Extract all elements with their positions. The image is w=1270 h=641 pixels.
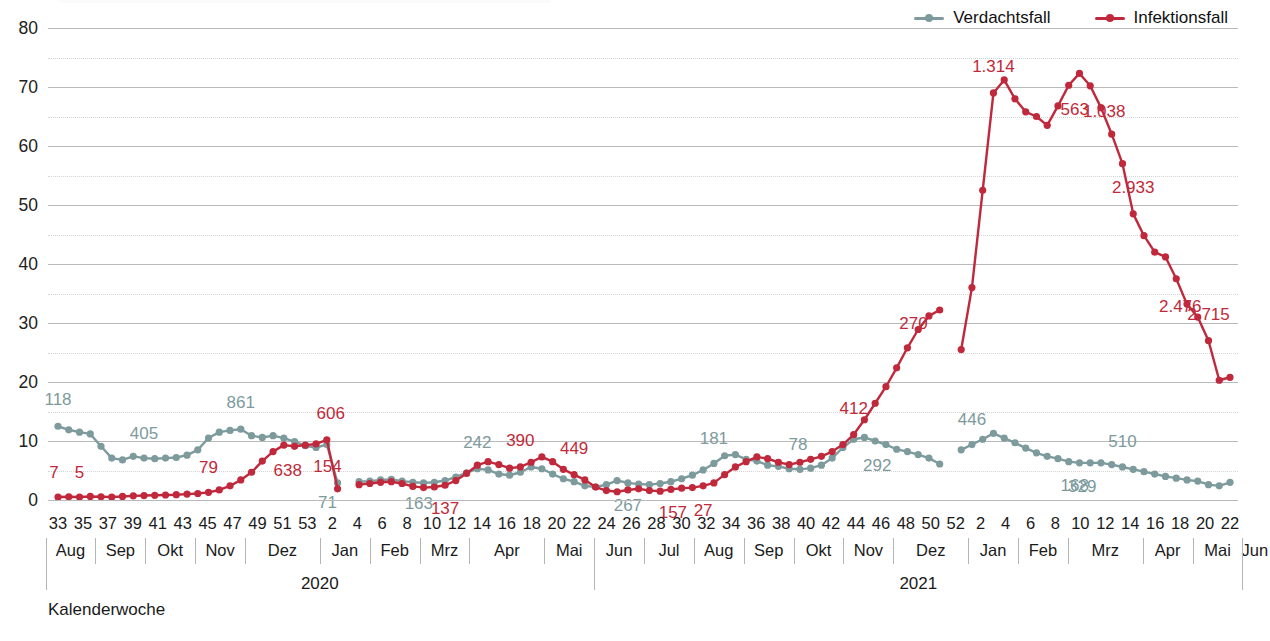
data-point-marker[interactable] bbox=[474, 462, 481, 469]
data-point-marker[interactable] bbox=[1097, 459, 1104, 466]
data-point-marker[interactable] bbox=[979, 187, 986, 194]
data-point-marker[interactable] bbox=[882, 383, 889, 390]
data-point-marker[interactable] bbox=[1205, 337, 1212, 344]
data-point-marker[interactable] bbox=[915, 451, 922, 458]
data-point-marker[interactable] bbox=[355, 481, 362, 488]
data-point-marker[interactable] bbox=[571, 471, 578, 478]
data-point-marker[interactable] bbox=[528, 459, 535, 466]
data-point-marker[interactable] bbox=[538, 453, 545, 460]
data-point-marker[interactable] bbox=[506, 465, 513, 472]
data-point-marker[interactable] bbox=[1194, 478, 1201, 485]
data-point-marker[interactable] bbox=[205, 434, 212, 441]
data-point-marker[interactable] bbox=[388, 478, 395, 485]
data-point-marker[interactable] bbox=[87, 493, 94, 500]
data-point-marker[interactable] bbox=[248, 469, 255, 476]
data-point-marker[interactable] bbox=[1226, 479, 1233, 486]
data-point-marker[interactable] bbox=[1044, 453, 1051, 460]
data-point-marker[interactable] bbox=[786, 461, 793, 468]
data-point-marker[interactable] bbox=[183, 452, 190, 459]
data-point-marker[interactable] bbox=[1033, 113, 1040, 120]
data-point-marker[interactable] bbox=[65, 426, 72, 433]
data-point-marker[interactable] bbox=[119, 493, 126, 500]
data-point-marker[interactable] bbox=[829, 455, 836, 462]
data-point-marker[interactable] bbox=[216, 486, 223, 493]
data-point-marker[interactable] bbox=[732, 463, 739, 470]
data-point-marker[interactable] bbox=[603, 487, 610, 494]
data-point-marker[interactable] bbox=[904, 448, 911, 455]
data-point-marker[interactable] bbox=[1162, 473, 1169, 480]
data-point-marker[interactable] bbox=[1022, 108, 1029, 115]
data-point-marker[interactable] bbox=[818, 453, 825, 460]
data-point-marker[interactable] bbox=[1140, 468, 1147, 475]
data-point-marker[interactable] bbox=[194, 490, 201, 497]
data-point-marker[interactable] bbox=[592, 483, 599, 490]
data-point-marker[interactable] bbox=[76, 429, 83, 436]
data-point-marker[interactable] bbox=[1216, 377, 1223, 384]
data-point-marker[interactable] bbox=[226, 427, 233, 434]
data-point-marker[interactable] bbox=[162, 491, 169, 498]
data-point-marker[interactable] bbox=[1011, 439, 1018, 446]
data-point-marker[interactable] bbox=[624, 486, 631, 493]
data-point-marker[interactable] bbox=[657, 488, 664, 495]
data-point-marker[interactable] bbox=[925, 455, 932, 462]
data-point-marker[interactable] bbox=[753, 453, 760, 460]
data-point-marker[interactable] bbox=[1076, 459, 1083, 466]
data-point-marker[interactable] bbox=[829, 448, 836, 455]
data-point-marker[interactable] bbox=[1173, 275, 1180, 282]
data-point-marker[interactable] bbox=[958, 446, 965, 453]
data-point-marker[interactable] bbox=[1001, 76, 1008, 83]
data-point-marker[interactable] bbox=[463, 470, 470, 477]
data-point-marker[interactable] bbox=[1022, 444, 1029, 451]
data-point-marker[interactable] bbox=[269, 432, 276, 439]
data-point-marker[interactable] bbox=[614, 488, 621, 495]
data-point-marker[interactable] bbox=[237, 476, 244, 483]
data-point-marker[interactable] bbox=[409, 483, 416, 490]
data-point-marker[interactable] bbox=[269, 448, 276, 455]
data-point-marker[interactable] bbox=[398, 480, 405, 487]
data-point-marker[interactable] bbox=[1011, 95, 1018, 102]
data-point-marker[interactable] bbox=[689, 472, 696, 479]
data-point-marker[interactable] bbox=[979, 436, 986, 443]
data-point-marker[interactable] bbox=[517, 463, 524, 470]
data-point-marker[interactable] bbox=[108, 455, 115, 462]
data-point-marker[interactable] bbox=[893, 364, 900, 371]
data-point-marker[interactable] bbox=[850, 431, 857, 438]
data-point-marker[interactable] bbox=[764, 455, 771, 462]
data-point-marker[interactable] bbox=[775, 459, 782, 466]
data-point-marker[interactable] bbox=[452, 477, 459, 484]
data-point-marker[interactable] bbox=[872, 400, 879, 407]
data-point-marker[interactable] bbox=[1130, 210, 1137, 217]
data-point-marker[interactable] bbox=[237, 426, 244, 433]
data-point-marker[interactable] bbox=[259, 434, 266, 441]
data-point-marker[interactable] bbox=[710, 460, 717, 467]
data-point-marker[interactable] bbox=[1130, 466, 1137, 473]
data-point-marker[interactable] bbox=[1076, 70, 1083, 77]
data-point-marker[interactable] bbox=[194, 446, 201, 453]
data-point-marker[interactable] bbox=[581, 476, 588, 483]
data-point-marker[interactable] bbox=[732, 451, 739, 458]
data-point-marker[interactable] bbox=[818, 462, 825, 469]
data-point-marker[interactable] bbox=[173, 454, 180, 461]
data-point-marker[interactable] bbox=[183, 491, 190, 498]
data-point-marker[interactable] bbox=[431, 483, 438, 490]
data-point-marker[interactable] bbox=[130, 453, 137, 460]
data-point-marker[interactable] bbox=[764, 462, 771, 469]
data-point-marker[interactable] bbox=[151, 455, 158, 462]
data-point-marker[interactable] bbox=[796, 466, 803, 473]
data-point-marker[interactable] bbox=[366, 480, 373, 487]
data-point-marker[interactable] bbox=[646, 487, 653, 494]
data-point-marker[interactable] bbox=[1173, 475, 1180, 482]
data-point-marker[interactable] bbox=[119, 456, 126, 463]
data-point-marker[interactable] bbox=[990, 89, 997, 96]
data-point-marker[interactable] bbox=[893, 446, 900, 453]
data-point-marker[interactable] bbox=[861, 434, 868, 441]
data-point-marker[interactable] bbox=[1140, 232, 1147, 239]
data-point-marker[interactable] bbox=[441, 482, 448, 489]
data-point-marker[interactable] bbox=[635, 485, 642, 492]
data-point-marker[interactable] bbox=[549, 470, 556, 477]
data-point-marker[interactable] bbox=[1044, 122, 1051, 129]
data-point-marker[interactable] bbox=[54, 423, 61, 430]
data-point-marker[interactable] bbox=[1151, 249, 1158, 256]
data-point-marker[interactable] bbox=[1119, 463, 1126, 470]
data-point-marker[interactable] bbox=[1205, 481, 1212, 488]
